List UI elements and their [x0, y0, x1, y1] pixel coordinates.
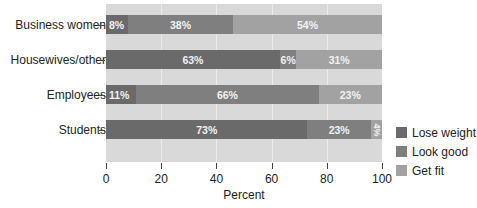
data-label: 11% [109, 89, 129, 101]
x-tick [327, 163, 328, 169]
bar-segment-lose-weight: 11% [106, 85, 136, 104]
bar-segment-look-good: 23% [307, 120, 370, 139]
data-label: 8% [109, 19, 124, 31]
category-label: Housewives/other [11, 53, 106, 67]
x-tick-label: 80 [320, 172, 333, 186]
bar-segment-lose-weight: 73% [106, 120, 307, 139]
bar-business-women: 8%38%54% [106, 15, 382, 34]
data-label: 31% [329, 54, 350, 66]
bar-segment-get-fit: 31% [296, 50, 382, 69]
x-tick-label: 0 [103, 172, 110, 186]
bar-housewives-other: 63%6%31% [106, 50, 382, 69]
x-tick-label: 20 [155, 172, 168, 186]
category-label: Employees [47, 88, 106, 102]
bar-segment-lose-weight: 8% [106, 15, 128, 34]
legend-swatch [396, 165, 407, 176]
bar-segment-get-fit: 54% [233, 15, 382, 34]
bar-students: 73%23%4% [106, 120, 382, 139]
x-tick [382, 163, 383, 169]
x-tick [161, 163, 162, 169]
x-tick-label: 60 [265, 172, 278, 186]
legend-swatch [396, 127, 407, 138]
category-tick [99, 60, 105, 61]
x-tick [272, 163, 273, 169]
legend-swatch [396, 146, 407, 157]
stacked-bar-chart: 8%38%54%63%6%31%11%66%23%73%23%4% Busine… [0, 0, 477, 208]
legend-label: Get fit [412, 164, 444, 178]
category-label: Business women [15, 18, 106, 32]
data-label: 23% [329, 124, 350, 136]
legend-label: Lose weight [412, 126, 476, 140]
data-label: 6% [281, 54, 296, 66]
category-tick [99, 95, 105, 96]
legend-item: Get fit [396, 161, 476, 180]
legend-item: Lose weight [396, 123, 476, 142]
bar-segment-look-good: 38% [128, 15, 233, 34]
category-tick [99, 130, 105, 131]
x-tick-label: 40 [210, 172, 223, 186]
bar-segment-get-fit: 23% [319, 85, 382, 104]
category-tick [99, 25, 105, 26]
bar-segment-get-fit: 4% [371, 120, 382, 139]
data-label: 4% [371, 123, 381, 136]
data-label: 73% [196, 124, 217, 136]
bar-segment-look-good: 66% [136, 85, 318, 104]
legend: Lose weightLook goodGet fit [396, 123, 476, 180]
bar-segment-lose-weight: 63% [106, 50, 280, 69]
data-label: 66% [217, 89, 238, 101]
data-label: 38% [170, 19, 191, 31]
data-label: 54% [297, 19, 318, 31]
plot-area: 8%38%54%63%6%31%11%66%23%73%23%4% [106, 4, 382, 162]
data-label: 23% [340, 89, 361, 101]
bar-employees: 11%66%23% [106, 85, 382, 104]
data-label: 63% [182, 54, 203, 66]
x-tick [106, 163, 107, 169]
legend-label: Look good [412, 145, 468, 159]
x-axis-title: Percent [223, 188, 264, 202]
bar-segment-look-good: 6% [280, 50, 297, 69]
x-tick [216, 163, 217, 169]
legend-item: Look good [396, 142, 476, 161]
x-tick-label: 100 [372, 172, 392, 186]
